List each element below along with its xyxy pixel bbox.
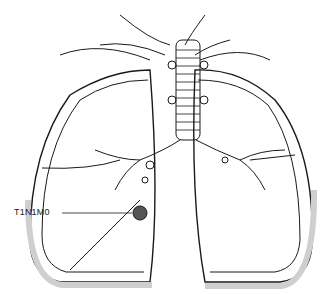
lung-drawing — [0, 0, 333, 294]
tumor — [133, 206, 147, 220]
right-lung — [30, 70, 155, 282]
stage-label: T1N1M0 — [14, 207, 50, 217]
left-lung — [194, 70, 312, 282]
